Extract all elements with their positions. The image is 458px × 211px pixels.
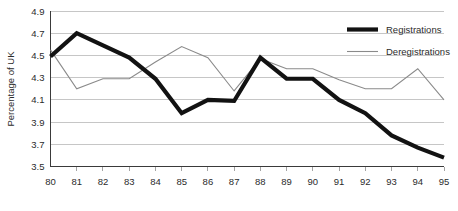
x-axis-tick-label: 88 xyxy=(255,176,266,187)
x-axis-tick-label: 87 xyxy=(229,176,240,187)
x-axis-tick-label: 85 xyxy=(176,176,187,187)
y-axis-tick-label: 4.3 xyxy=(31,72,44,83)
y-axis-tick-label: 4.1 xyxy=(31,94,44,105)
y-axis-tick-label: 3.9 xyxy=(31,117,44,128)
y-axis-tick-label: 4.9 xyxy=(31,6,44,17)
legend-label-registrations: Registrations xyxy=(386,24,442,35)
y-axis-tick-label: 4.7 xyxy=(31,28,44,39)
y-axis-tick-label: 3.5 xyxy=(31,161,44,172)
x-axis-tick-label: 95 xyxy=(439,176,450,187)
y-axis-tick-label: 4.5 xyxy=(31,50,44,61)
x-axis-tick-label: 86 xyxy=(203,176,214,187)
x-axis-tick-label: 91 xyxy=(334,176,345,187)
chart-container: 4.94.74.54.34.13.93.73.5 808182838485868… xyxy=(0,0,458,211)
y-axis-title: Percentage of UK xyxy=(5,51,16,127)
x-axis-tick-label: 80 xyxy=(45,176,56,187)
x-axis-tick-label: 90 xyxy=(308,176,319,187)
x-axis-tick-label: 83 xyxy=(124,176,135,187)
x-axis-tick-label: 92 xyxy=(360,176,371,187)
legend-label-deregistrations: Deregistrations xyxy=(386,46,450,57)
x-axis-tick-label: 82 xyxy=(98,176,109,187)
line-chart: 4.94.74.54.34.13.93.73.5 808182838485868… xyxy=(0,0,458,211)
x-axis-tick-label: 84 xyxy=(150,176,161,187)
x-axis-tick-label: 94 xyxy=(412,176,423,187)
x-axis-tick-label: 89 xyxy=(281,176,292,187)
x-axis-tick-label: 81 xyxy=(71,176,82,187)
y-axis-tick-label: 3.7 xyxy=(31,139,44,150)
x-axis-tick-label: 93 xyxy=(386,176,397,187)
